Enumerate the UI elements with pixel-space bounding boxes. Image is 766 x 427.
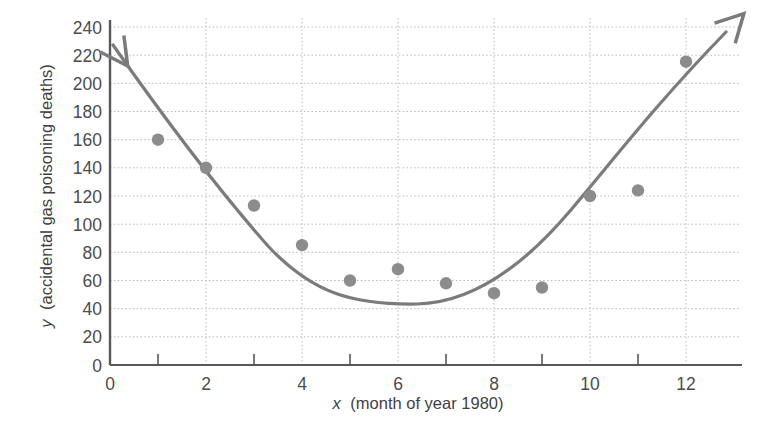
scatter-plot-svg: 240 220 200 180 160 140 120 100 80 60 40… <box>0 0 766 427</box>
y-tick-label: 140 <box>73 158 102 178</box>
x-axis-label-variable: x <box>331 394 341 412</box>
x-tick-label: 12 <box>676 374 695 394</box>
y-tick-label: 0 <box>92 356 102 376</box>
y-axis-label-variable: y <box>37 318 55 329</box>
x-tick-label: 8 <box>489 374 499 394</box>
y-tick-label: 40 <box>83 299 103 319</box>
chart-figure: 240 220 200 180 160 140 120 100 80 60 40… <box>0 0 766 427</box>
y-tick-label: 20 <box>83 327 103 347</box>
data-point <box>296 239 308 251</box>
x-axis-label: x (month of year 1980) <box>331 394 503 412</box>
data-point <box>584 190 596 202</box>
data-point <box>488 287 500 299</box>
x-tick-label: 0 <box>105 374 115 394</box>
x-axis-label-text: (month of year 1980) <box>350 394 503 412</box>
y-tick-label: 240 <box>73 18 102 38</box>
data-point <box>200 162 212 174</box>
plot-background <box>0 0 766 427</box>
x-tick-label: 4 <box>297 374 307 394</box>
y-tick-label: 200 <box>73 74 102 94</box>
y-axis-label-text: (accidental gas poisoning deaths) <box>37 64 55 310</box>
data-point <box>392 263 404 275</box>
y-tick-label: 80 <box>83 243 103 263</box>
y-tick-label: 60 <box>83 271 103 291</box>
data-point <box>248 199 260 211</box>
data-point <box>536 281 548 293</box>
y-tick-label: 160 <box>73 130 102 150</box>
y-tick-label: 120 <box>73 187 102 207</box>
y-axis-label: y (accidental gas poisoning deaths) <box>37 64 55 329</box>
data-point <box>632 184 644 196</box>
data-point <box>440 277 452 289</box>
x-tick-label: 2 <box>201 374 211 394</box>
x-tick-label: 6 <box>393 374 403 394</box>
y-tick-label: 180 <box>73 102 102 122</box>
data-point <box>152 134 164 146</box>
y-tick-label: 100 <box>73 215 102 235</box>
x-tick-label: 10 <box>580 374 600 394</box>
data-point <box>344 274 356 286</box>
data-point <box>680 56 692 68</box>
y-tick-label: 220 <box>73 46 102 66</box>
